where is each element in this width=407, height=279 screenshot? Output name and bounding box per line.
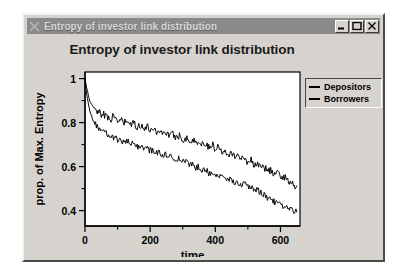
window-title-bar[interactable]: Entropy of investor link distribution <box>27 18 380 34</box>
close-button[interactable] <box>365 20 379 33</box>
legend-label-borrowers: Borrowers <box>324 94 369 104</box>
chart-legend: Depositors Borrowers <box>305 78 382 108</box>
legend-line-swatch-depositors <box>309 86 320 88</box>
plot-frame <box>85 72 300 226</box>
x-axis-label: time <box>181 249 205 257</box>
application-window: Entropy of investor link distribution En… <box>22 13 385 262</box>
maximize-button[interactable] <box>350 20 364 33</box>
legend-item-borrowers: Borrowers <box>309 93 378 105</box>
minimize-button[interactable] <box>335 20 349 33</box>
x-tick-label: 200 <box>141 234 159 246</box>
entropy-line-chart: 0.40.60.810200400600timeprop. of Max. En… <box>27 36 380 257</box>
legend-item-depositors: Depositors <box>309 81 378 93</box>
y-tick-label: 1 <box>70 73 76 85</box>
window-title-text: Entropy of investor link distribution <box>44 20 334 33</box>
window-menu-x-icon[interactable] <box>28 20 41 33</box>
legend-line-swatch-borrowers <box>309 98 320 100</box>
y-tick-label: 0.6 <box>61 161 76 173</box>
x-tick-label: 600 <box>272 234 290 246</box>
x-tick-label: 0 <box>82 234 88 246</box>
legend-label-depositors: Depositors <box>324 82 371 92</box>
y-tick-label: 0.8 <box>61 117 76 129</box>
x-tick-label: 400 <box>207 234 225 246</box>
window-client-area: Entropy of investor link distribution 0.… <box>27 36 380 257</box>
y-tick-label: 0.4 <box>61 205 76 217</box>
chart-plot-region: 0.40.60.810200400600timeprop. of Max. En… <box>27 36 380 257</box>
y-axis-label: prop. of Max. Entropy <box>33 92 45 206</box>
